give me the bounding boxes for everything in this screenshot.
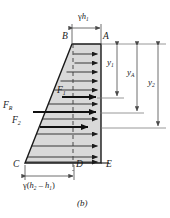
dimension-label-y1: y1 — [107, 58, 114, 67]
dimension-bottom-gamma-dh — [25, 165, 74, 180]
dimension-label-y2: y2 — [148, 78, 155, 87]
dimension-top-gamma-h1 — [72, 24, 101, 43]
point-label-B: B — [62, 32, 68, 42]
point-label-E: E — [106, 160, 112, 170]
dimension-label-gamma-h1: γh1 — [78, 12, 89, 21]
point-label-C: C — [13, 160, 19, 170]
figure-container: γh1 B A F1 FR F2 y1 yA y2 C D E γ(h2 – h… — [0, 0, 170, 218]
dimension-label-yA: yA — [127, 68, 134, 77]
pressure-trapezoid — [25, 44, 101, 163]
figure-caption: (b) — [77, 199, 88, 208]
point-label-D: D — [76, 160, 83, 170]
force-label-F2: F2 — [12, 116, 21, 126]
force-label-FR: FR — [3, 101, 12, 111]
dimension-label-gamma-dh: γ(h2 – h1) — [23, 181, 55, 190]
point-label-A: A — [103, 32, 109, 42]
force-label-F1: F1 — [57, 86, 66, 96]
